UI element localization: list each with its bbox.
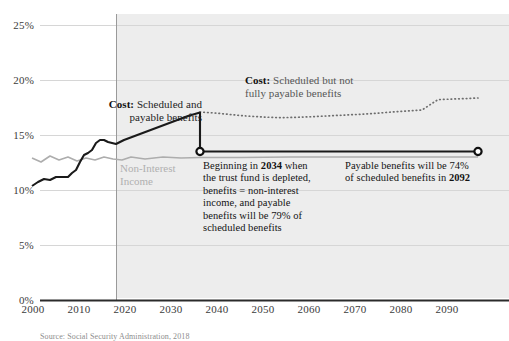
x-tick-2010: 2010	[56, 303, 102, 315]
non-interest-line2: Income	[120, 175, 153, 187]
x-tick-2070: 2070	[332, 303, 378, 315]
x-tick-2020: 2020	[102, 303, 148, 315]
depletion-l1a: Beginning in	[203, 160, 261, 171]
cost-payable-line2: payable benefits	[129, 111, 202, 123]
depletion-l5: benefits will be 79% of	[203, 210, 302, 221]
x-tick-2040: 2040	[194, 303, 240, 315]
payable-l2a: of scheduled benefits in	[345, 172, 449, 183]
depletion-l4: income, and payable	[203, 197, 291, 208]
y-tick-25: 25%	[0, 19, 34, 31]
y-tick-5: 5%	[0, 239, 34, 251]
depletion-l3: benefits = non-interest	[203, 185, 299, 196]
end-marker	[474, 148, 481, 155]
x-tick-2000: 2000	[10, 303, 56, 315]
chart-container: 25% 20% 15% 10% 5% 0% 2000 2010 2020 203…	[0, 0, 509, 341]
y-tick-15: 15%	[0, 129, 34, 141]
x-tick-2080: 2080	[378, 303, 424, 315]
depletion-annotation: Beginning in 2034 when the trust fund is…	[203, 160, 333, 234]
x-tick-2060: 2060	[286, 303, 332, 315]
y-tick-20: 20%	[0, 74, 34, 86]
projection-shaded-region	[116, 14, 509, 298]
non-interest-line1: Non-Interest	[120, 162, 176, 174]
y-tick-10: 10%	[0, 184, 34, 196]
cost-notpayable-line2: fully payable benefits	[245, 87, 341, 99]
non-interest-income-label: Non-Interest Income	[120, 162, 210, 188]
cost-notpayable-lead: Cost:	[245, 74, 270, 86]
depletion-marker	[196, 148, 203, 155]
cost-scheduled-not-payable-label: Cost: Scheduled but not fully payable be…	[245, 74, 430, 100]
x-tick-2050: 2050	[240, 303, 286, 315]
payable-year-2092: 2092	[449, 172, 470, 183]
payable-annotation: Payable benefits will be 74% of schedule…	[345, 160, 505, 185]
depletion-year-2034: 2034	[261, 160, 282, 171]
depletion-l2: the trust fund is depleted,	[203, 172, 311, 183]
cost-payable-lead: Cost:	[109, 98, 134, 110]
depletion-l6: scheduled benefits	[203, 222, 282, 233]
depletion-l1c: when	[282, 160, 308, 171]
x-tick-2090: 2090	[424, 303, 470, 315]
cost-payable-rest: Scheduled and	[134, 98, 202, 110]
x-tick-2030: 2030	[148, 303, 194, 315]
cost-notpayable-rest: Scheduled but not	[270, 74, 353, 86]
cost-scheduled-payable-label: Cost: Scheduled and payable benefits	[52, 98, 202, 124]
source-note: Source: Social Security Administration, …	[40, 332, 190, 341]
payable-l1: Payable benefits will be 74%	[345, 160, 469, 171]
